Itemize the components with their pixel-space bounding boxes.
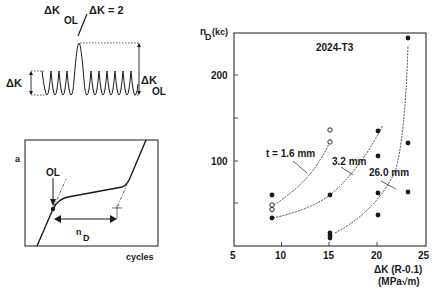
x-axis-label-line2: (MPa√m) — [378, 276, 420, 287]
data-point — [270, 193, 275, 198]
data-point — [270, 207, 274, 211]
x-axis-label-line1: ΔK (R-0.1) — [374, 264, 422, 275]
overload-point — [51, 207, 55, 211]
extrapolation-before — [54, 179, 66, 206]
data-point — [376, 191, 381, 196]
curve-label-3.2mm: 3.2 mm — [332, 156, 367, 167]
chart-title: 2024-T3 — [316, 42, 354, 53]
x-tick-25: 25 — [418, 250, 430, 261]
ratio-slash — [78, 14, 87, 36]
data-point — [406, 36, 411, 41]
data-point — [376, 129, 381, 134]
nd-vs-deltak-chart: 2024-T3 n D (kc) 200 100 5 10 15 20 25 Δ… — [200, 26, 430, 287]
x-ticks: 5 10 15 20 25 — [230, 242, 430, 261]
leader-3.2mm — [341, 167, 353, 175]
data-point — [406, 141, 411, 146]
x-tick-20: 20 — [371, 250, 383, 261]
nd-label-sub: D — [83, 233, 90, 243]
data-point — [328, 128, 332, 132]
data-point — [406, 190, 411, 195]
data-point — [270, 203, 274, 207]
y-tick-100: 100 — [211, 156, 228, 167]
load-waveform — [42, 43, 138, 95]
y-tick-200: 200 — [211, 70, 228, 81]
delta-k-ol-label: ΔK — [141, 74, 157, 86]
data-point — [376, 154, 381, 159]
x-tick-10: 10 — [275, 250, 287, 261]
figure-canvas: ΔK OL ΔK = 2 ΔK ΔK OL a cycles — [0, 0, 440, 289]
x-tick-15: 15 — [323, 250, 335, 261]
curve-t-3.2mm — [273, 125, 383, 218]
filled-markers — [270, 36, 411, 241]
open-markers — [270, 128, 332, 212]
ratio-label-num: ΔK — [44, 4, 60, 16]
leader-26.0mm — [381, 181, 396, 189]
data-point — [376, 213, 381, 218]
x-tick-5: 5 — [230, 250, 236, 261]
y-axis-label-unit: (kc) — [212, 27, 228, 37]
y-axis-label-sub: D — [205, 32, 212, 42]
curve-label-1.6mm: t = 1.6 mm — [266, 148, 315, 159]
cycles-axis-label: cycles — [126, 252, 154, 262]
curve-label-26.0mm: 26.0 mm — [369, 167, 409, 178]
data-point — [328, 140, 332, 144]
delta-k-ol-sub: OL — [152, 86, 166, 97]
curve-t-26.0mm — [335, 45, 408, 233]
overload-label: OL — [46, 167, 60, 178]
data-point — [270, 216, 275, 221]
data-point — [328, 193, 333, 198]
a-axis-label: a — [15, 154, 21, 164]
leader-1.6mm — [293, 161, 307, 173]
delta-k-label: ΔK — [6, 77, 22, 89]
ratio-label-den: ΔK = 2 — [89, 4, 124, 16]
crack-growth-schematic: a cycles OL n D — [15, 140, 158, 262]
data-point — [328, 236, 333, 241]
ratio-label-num-sub: OL — [64, 15, 78, 26]
loading-schematic: ΔK OL ΔK = 2 ΔK ΔK OL — [6, 4, 166, 97]
nd-label: n — [76, 227, 82, 237]
